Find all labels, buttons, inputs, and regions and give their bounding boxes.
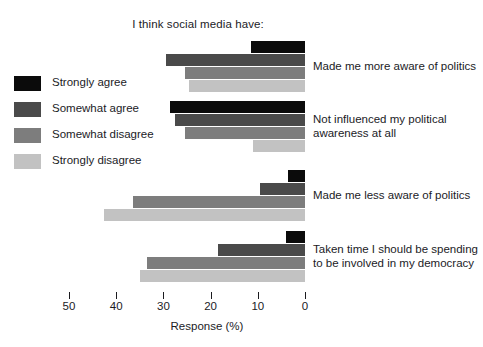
axis-tick-label: 50	[49, 300, 89, 312]
category-label-line: Taken time I should be spending	[313, 243, 483, 257]
x-axis: 50403020100Response (%)	[0, 0, 483, 347]
category-label: Not influenced my politicalawareness at …	[313, 113, 483, 140]
axis-tick-label: 30	[143, 300, 183, 312]
category-label: Taken time I should be spendingto be inv…	[313, 243, 483, 270]
x-axis-title: Response (%)	[117, 320, 297, 332]
category-label: Made me less aware of politics	[313, 189, 483, 203]
axis-tick-label: 10	[238, 300, 278, 312]
axis-tick-mark	[163, 292, 164, 299]
axis-tick-mark	[116, 292, 117, 299]
category-label-line: awareness at all	[313, 127, 483, 141]
category-label-line: to be involved in my democracy	[313, 257, 483, 271]
axis-tick-mark	[211, 292, 212, 299]
category-label-line: Made me more aware of politics	[313, 60, 483, 74]
axis-tick-mark	[258, 292, 259, 299]
axis-tick-label: 0	[285, 300, 325, 312]
category-label-line: Made me less aware of politics	[313, 189, 483, 203]
footnote-remnant	[6, 341, 306, 347]
category-label: Made me more aware of politics	[313, 60, 483, 74]
axis-tick-mark	[69, 292, 70, 299]
axis-tick-label: 40	[96, 300, 136, 312]
category-label-line: Not influenced my political	[313, 113, 483, 127]
axis-tick-label: 20	[191, 300, 231, 312]
axis-tick-mark	[305, 292, 306, 299]
